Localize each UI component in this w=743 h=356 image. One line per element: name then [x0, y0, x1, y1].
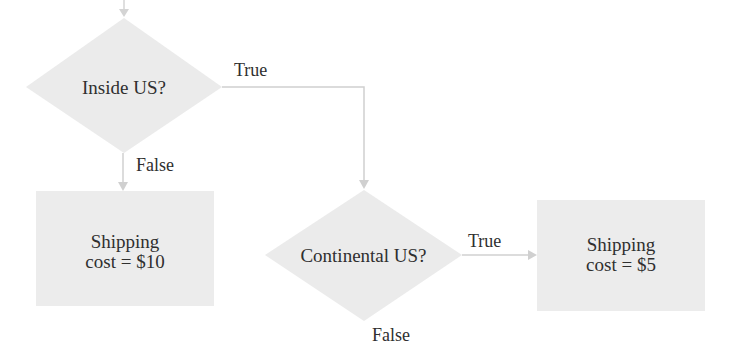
edge-label-continental-false: False [372, 326, 410, 344]
continental-us-label: Continental US? [265, 246, 462, 266]
shipping-5-line2: cost = $5 [537, 255, 705, 275]
edge-label-inside-false: False [136, 156, 174, 174]
edge-label-inside-true: True [234, 61, 267, 79]
shipping-10-line1: Shipping [36, 232, 214, 252]
incoming-arrow [119, 0, 129, 17]
edge-inside-true-arrow [222, 87, 369, 189]
flowchart-canvas: Inside US? Continental US? Shipping cost… [0, 0, 743, 356]
edge-label-continental-true: True [468, 232, 501, 250]
edge-inside-false-arrow [118, 153, 128, 191]
inside-us-label: Inside US? [26, 78, 222, 98]
shipping-10-line2: cost = $10 [36, 252, 214, 272]
edge-continental-true-arrow [462, 250, 537, 260]
shipping-5-line1: Shipping [537, 235, 705, 255]
